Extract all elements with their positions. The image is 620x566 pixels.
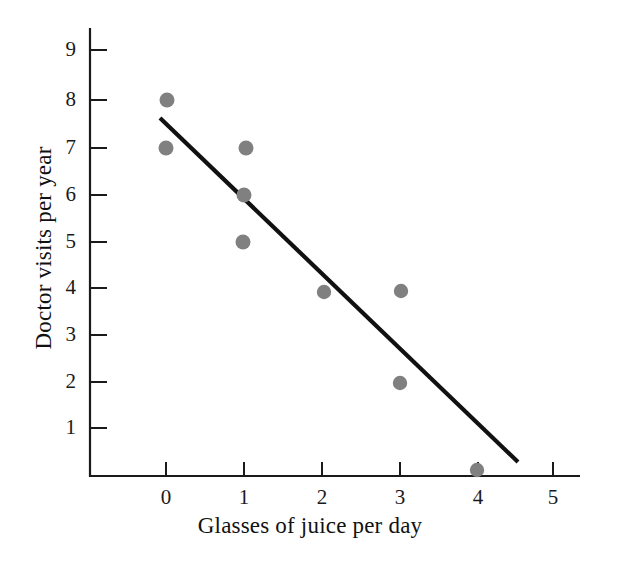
data-point	[393, 376, 407, 390]
data-point	[160, 93, 175, 108]
x-axis-title: Glasses of juice per day	[0, 513, 620, 539]
x-tick-label-1: 1	[231, 487, 257, 508]
data-point	[239, 141, 254, 156]
data-point	[159, 141, 174, 156]
y-axis-title-container: Doctor visits per year	[12, 0, 56, 500]
y-axis-ticks	[90, 50, 107, 428]
data-point	[237, 188, 252, 203]
plot-canvas	[0, 0, 620, 566]
data-points	[159, 93, 485, 478]
x-tick-label-5: 5	[540, 487, 566, 508]
y-axis-title: Doctor visits per year	[31, 98, 57, 398]
data-point	[470, 463, 484, 477]
x-tick-label-4: 4	[465, 487, 491, 508]
data-point	[394, 284, 408, 298]
x-tick-label-3: 3	[387, 487, 413, 508]
trend-line	[160, 118, 518, 462]
x-axis-ticks	[166, 462, 553, 476]
data-point	[317, 285, 331, 299]
data-point	[236, 235, 251, 250]
x-tick-label-0: 0	[153, 487, 179, 508]
scatter-plot-figure: 9 8 7 6 5 4 3 2 1 0 1 2 3 4 5 Glasses of…	[0, 0, 620, 566]
x-tick-label-2: 2	[309, 487, 335, 508]
